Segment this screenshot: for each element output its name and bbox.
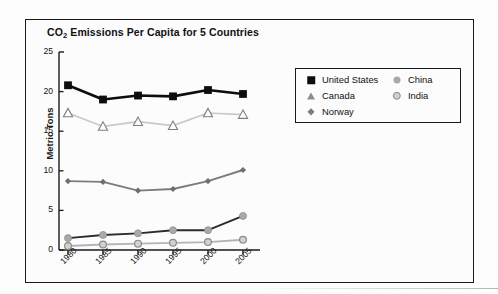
legend-entry: China bbox=[391, 74, 433, 86]
y-tick-label: 0 bbox=[35, 244, 53, 254]
chart-legend: United StatesCanadaNorwayChinaIndia bbox=[295, 68, 461, 123]
chart-title-rest: Emissions Per Capita for 5 Countries bbox=[67, 26, 259, 38]
legend-entry: United States bbox=[305, 74, 378, 86]
open-triangle-marker-shape bbox=[307, 93, 315, 100]
filled-square-marker-shape bbox=[307, 76, 315, 84]
legend-label: United States bbox=[322, 74, 378, 86]
legend-label: India bbox=[408, 90, 428, 102]
legend-label: China bbox=[408, 74, 433, 86]
filled-circle-marker-shape bbox=[394, 77, 401, 84]
legend-entry: India bbox=[391, 90, 428, 102]
filled-circle-marker bbox=[391, 74, 403, 86]
open-circle-marker bbox=[391, 90, 403, 102]
page-edge-line bbox=[250, 288, 498, 289]
figure-border bbox=[25, 19, 474, 283]
open-circle-marker-shape bbox=[393, 92, 401, 100]
y-tick-label: 25 bbox=[35, 46, 53, 56]
legend-label: Norway bbox=[322, 106, 354, 118]
y-tick-label: 10 bbox=[35, 165, 53, 175]
legend-entry: Norway bbox=[305, 106, 354, 118]
diamond-marker bbox=[305, 106, 317, 118]
y-tick-label: 5 bbox=[35, 204, 53, 214]
open-triangle-marker bbox=[305, 90, 317, 102]
y-tick-label: 15 bbox=[35, 125, 53, 135]
legend-entry: Canada bbox=[305, 90, 355, 102]
filled-square-marker bbox=[305, 74, 317, 86]
legend-label: Canada bbox=[322, 90, 355, 102]
y-tick-label: 20 bbox=[35, 86, 53, 96]
page-background: CO2 Emissions Per Capita for 5 Countries… bbox=[0, 0, 498, 294]
chart-title: CO2 Emissions Per Capita for 5 Countries bbox=[47, 26, 259, 38]
chart-title-main: CO bbox=[47, 26, 63, 38]
diamond-marker-shape bbox=[307, 108, 314, 115]
chart-title-subscript: 2 bbox=[63, 31, 67, 40]
